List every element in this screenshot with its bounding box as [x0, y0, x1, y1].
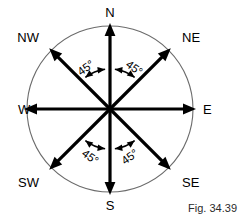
direction-label-west: W — [18, 102, 31, 117]
direction-label-southwest: SW — [18, 175, 40, 190]
compass-arrowhead-south — [105, 182, 116, 195]
figure-caption: Fig. 34.39 — [188, 202, 237, 214]
compass-diagram: N NE E SE S SW W NW 45° 45° 45° 45° Fig.… — [0, 0, 242, 223]
direction-label-east: E — [203, 102, 212, 117]
direction-label-south: S — [106, 198, 115, 213]
direction-label-northeast: NE — [182, 30, 200, 45]
angle-label-north-northwest: 45° — [75, 58, 96, 78]
angle-arc-head-south-southeast — [127, 141, 135, 148]
direction-label-southeast: SE — [182, 175, 200, 190]
direction-label-northwest: NW — [17, 30, 39, 45]
angle-label-north-northeast: 45° — [124, 58, 145, 78]
compass-arrowhead-east — [183, 104, 196, 115]
compass-center-hub — [108, 107, 112, 111]
compass-figure: N NE E SE S SW W NW 45° 45° 45° 45° Fig.… — [0, 0, 242, 223]
direction-label-north: N — [105, 5, 114, 20]
compass-arrowhead-north — [105, 23, 116, 36]
